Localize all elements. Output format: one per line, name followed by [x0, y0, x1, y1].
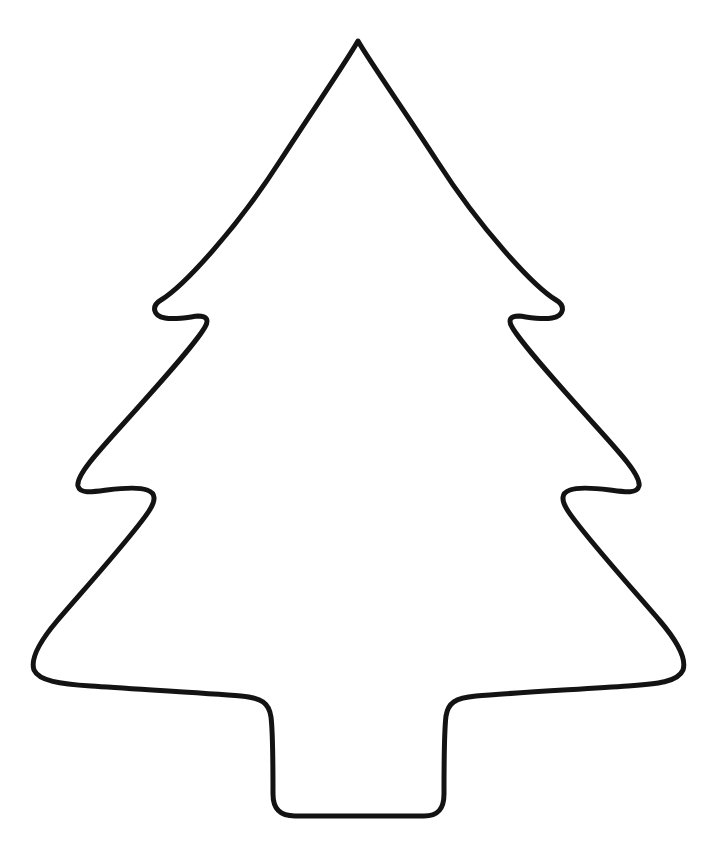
drawing-canvas: [0, 0, 725, 857]
christmas-tree-drawing: [0, 0, 725, 857]
